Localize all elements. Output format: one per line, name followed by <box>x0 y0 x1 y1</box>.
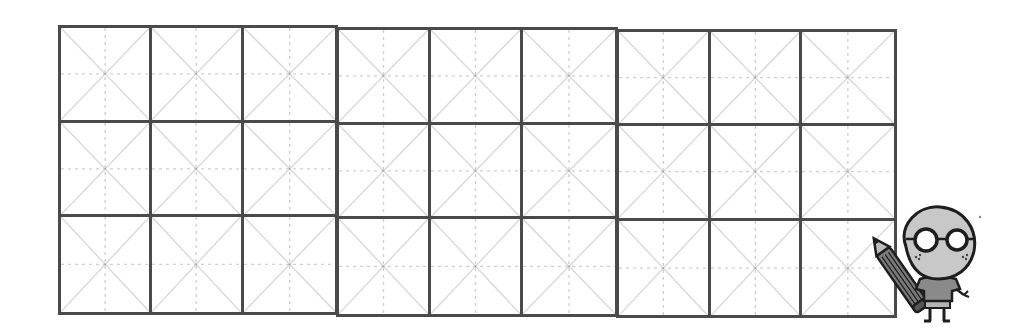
rice-grid-guides-icon <box>244 123 335 215</box>
grid-cell <box>244 28 335 123</box>
rice-grid-guides-icon <box>711 32 800 123</box>
rice-grid-guides-icon <box>152 28 240 120</box>
grid-cell <box>523 30 615 125</box>
grid-cell <box>339 125 431 220</box>
rice-grid-guides-icon <box>61 28 149 120</box>
grid-block-3 <box>616 29 897 318</box>
rice-grid-guides-icon <box>619 32 708 123</box>
grid-cell <box>619 32 711 126</box>
grid-cell <box>711 221 803 315</box>
grid-cell <box>244 123 335 218</box>
grid-cell <box>619 221 711 315</box>
rice-grid-guides-icon <box>152 217 240 312</box>
rice-grid-guides-icon <box>523 125 615 217</box>
rice-grid-guides-icon <box>619 126 708 217</box>
rice-grid-guides-icon <box>61 123 149 215</box>
rice-grid-guides-icon <box>339 30 428 122</box>
rice-grid-guides-icon <box>244 217 335 312</box>
grid-cell <box>523 125 615 220</box>
grid-cell <box>431 219 523 314</box>
grid-block-1 <box>58 25 338 315</box>
rice-grid-guides-icon <box>152 123 240 215</box>
grid-cell <box>152 123 243 218</box>
grid-cell <box>61 123 152 218</box>
grid-cell <box>523 219 615 314</box>
rice-grid-guides-icon <box>711 221 800 315</box>
grid-cell <box>152 217 243 312</box>
grid-cell <box>339 30 431 125</box>
grid-cell <box>244 217 335 312</box>
rice-grid-guides-icon <box>61 217 149 312</box>
rice-grid-guides-icon <box>431 30 520 122</box>
grid-block-2 <box>336 27 618 317</box>
rice-grid-guides-icon <box>244 28 335 120</box>
grid-cell <box>802 32 894 126</box>
grid-cell <box>711 126 803 220</box>
rice-grid-guides-icon <box>619 221 708 315</box>
rice-grid-guides-icon <box>711 126 800 217</box>
rice-grid-guides-icon <box>339 125 428 217</box>
rice-grid-guides-icon <box>523 30 615 122</box>
grid-cell <box>431 125 523 220</box>
grid-cell <box>431 30 523 125</box>
grid-cell <box>152 28 243 123</box>
grid-cell <box>619 126 711 220</box>
rice-grid-guides-icon <box>431 125 520 217</box>
rice-grid-guides-icon <box>523 219 615 314</box>
rice-grid-guides-icon <box>339 219 428 314</box>
student-mascot-icon <box>868 195 988 327</box>
grid-cell <box>61 28 152 123</box>
grid-cell <box>61 217 152 312</box>
worksheet-canvas <box>0 0 1034 331</box>
grid-cell <box>339 219 431 314</box>
grid-cell <box>711 32 803 126</box>
rice-grid-guides-icon <box>802 32 894 123</box>
rice-grid-guides-icon <box>431 219 520 314</box>
